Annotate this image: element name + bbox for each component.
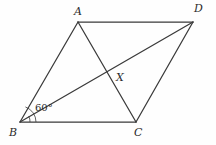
vertex-label-D: D xyxy=(194,3,203,14)
vertex-label-C: C xyxy=(134,127,142,138)
vertex-label-B: B xyxy=(9,127,17,138)
angle-label-60: 60° xyxy=(35,103,53,113)
vertex-label-X: X xyxy=(116,72,124,83)
edge-CD xyxy=(136,22,193,122)
vertex-label-A: A xyxy=(74,6,82,17)
angle-arc-inner xyxy=(29,116,30,122)
geometry-figure: A B C D X 60° xyxy=(0,0,216,145)
figure-canvas xyxy=(0,0,216,145)
